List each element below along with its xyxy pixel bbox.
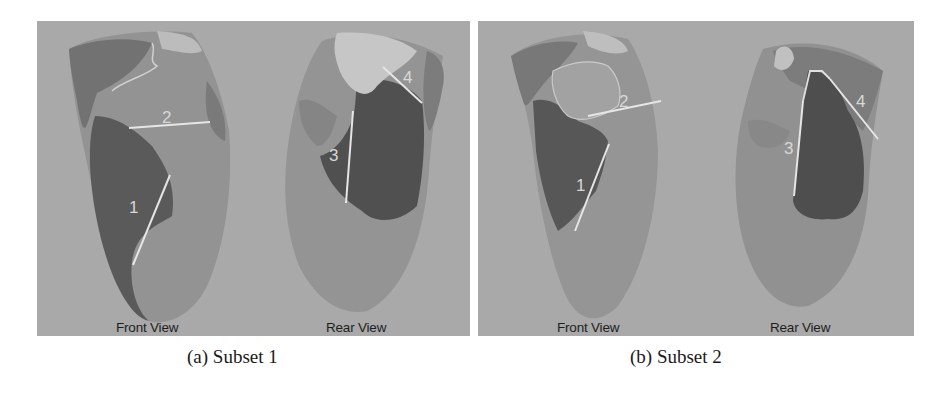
heart-surface-renders: 2 1 3 4 [37,21,470,336]
rear-view-heart: 3 4 [285,33,444,312]
marker-2: 2 [162,108,171,127]
marker-1: 1 [129,198,138,217]
marker-3: 3 [329,146,338,165]
marker-1: 1 [576,176,585,195]
subfigure-b-caption: (b) Subset 2 [630,346,722,368]
front-view-heart: 2 1 [69,31,230,322]
marker-4: 4 [403,68,412,87]
marker-4: 4 [856,92,865,111]
subfigure-a-caption: (a) Subset 1 [187,346,278,368]
marker-2: 2 [619,92,628,111]
front-view-label: Front View [557,320,619,335]
subfigure-b-image: 2 1 3 4 Front View Rear View [478,21,914,336]
marker-3: 3 [784,139,793,158]
front-view-heart: 2 1 [511,31,661,318]
subfigure-a-image: 2 1 3 4 Front View Rear View [37,21,470,336]
rear-view-label: Rear View [770,320,830,335]
front-view-label: Front View [116,320,178,335]
rear-view-label: Rear View [326,320,386,335]
rear-view-heart: 3 4 [736,44,883,307]
heart-surface-renders: 2 1 3 4 [478,21,914,336]
